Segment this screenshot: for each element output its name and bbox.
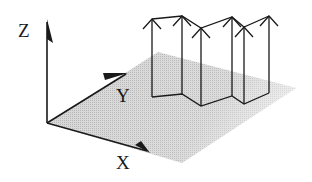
z-axis-arrowhead-icon	[47, 19, 53, 43]
panels-top-edge	[152, 16, 269, 28]
z-axis-label: Z	[18, 21, 30, 40]
y-axis-label: Y	[116, 86, 130, 105]
coordinate-diagram	[0, 0, 312, 182]
diagram-canvas: Z Y X	[0, 0, 312, 182]
xy-plane	[47, 52, 296, 163]
x-axis-label: X	[116, 153, 130, 172]
